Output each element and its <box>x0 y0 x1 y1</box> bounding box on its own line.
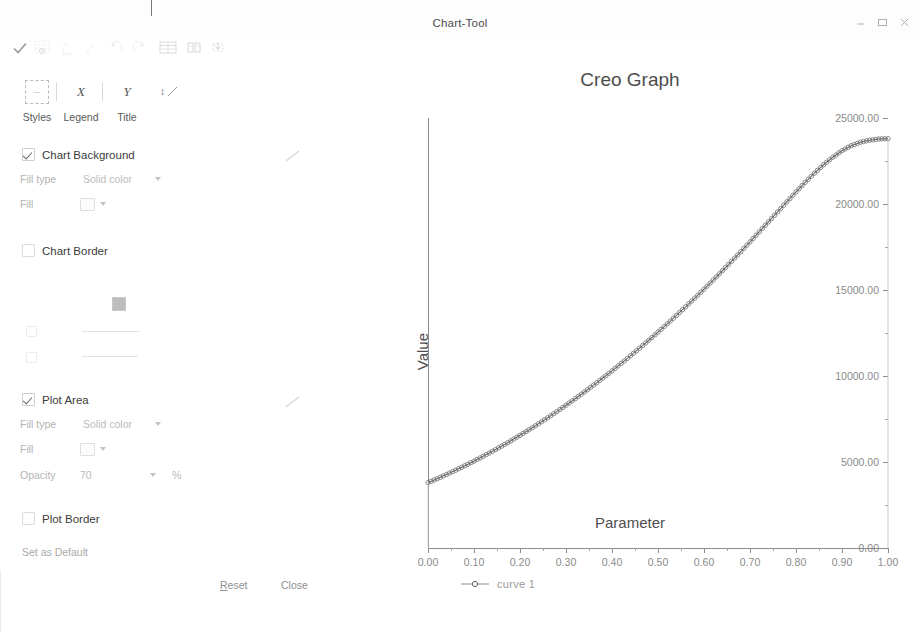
svg-text:xy: xy <box>63 41 69 47</box>
x-tick-minor <box>451 548 452 551</box>
tab-title[interactable]: Y Title <box>104 78 150 123</box>
chevron-down-icon <box>100 447 106 451</box>
x-tick-minor <box>727 548 728 551</box>
chart-border-checkbox[interactable] <box>22 244 35 257</box>
x-tick-label: 0.00 <box>418 556 438 568</box>
set-as-default-button[interactable]: Set as Default <box>22 546 88 558</box>
x-tick <box>428 548 429 553</box>
x-axis-icon: X <box>58 78 104 106</box>
tab-title-label: Title <box>104 111 150 123</box>
chart-border-label: Chart Border <box>42 245 108 257</box>
plot-area-edit-icon[interactable] <box>285 396 301 408</box>
reset-mnemonic: R <box>220 579 228 591</box>
tab-legend[interactable]: X Legend <box>58 78 104 123</box>
chart-background-fill-label: Fill <box>20 198 33 210</box>
plot-area-filltype-select[interactable]: Solid color <box>83 418 132 430</box>
plot-area-fill-swatch[interactable] <box>80 443 95 456</box>
x-tick-label: 1.00 <box>878 556 898 568</box>
x-tick-label: 0.40 <box>602 556 622 568</box>
styles-panel: xy <box>0 34 340 598</box>
tab-divider <box>102 82 103 101</box>
panel-tabs: — Styles X Legend Y Title ↕ <box>6 78 206 130</box>
close-button[interactable]: Close <box>275 577 314 593</box>
x-tick-label: 0.50 <box>648 556 668 568</box>
chevron-down-icon <box>155 177 161 181</box>
plot-area-checkbox[interactable] <box>22 393 35 406</box>
plot-area-label: Plot Area <box>42 394 89 406</box>
x-tick-minor <box>635 548 636 551</box>
x-tick <box>474 548 475 553</box>
chart-background-group[interactable]: Chart Background <box>22 148 135 161</box>
redo-icon[interactable] <box>132 40 147 56</box>
plot-border-group[interactable]: Plot Border <box>22 512 100 525</box>
chart-background-filltype-select[interactable]: Solid color <box>83 173 132 185</box>
undo-icon[interactable] <box>108 40 123 56</box>
chevron-down-icon <box>100 202 106 206</box>
chart-border-group[interactable]: Chart Border <box>22 244 108 257</box>
x-tick-label: 0.70 <box>740 556 760 568</box>
chart-background-checkbox[interactable] <box>22 148 35 161</box>
chart-legend[interactable]: curve 1 <box>460 578 535 590</box>
x-tick-label: 0.10 <box>464 556 484 568</box>
x-tick-minor <box>589 548 590 551</box>
title-bar: Chart-Tool <box>0 0 920 34</box>
x-tick-minor <box>819 548 820 551</box>
maximize-icon[interactable] <box>877 17 888 28</box>
tab-annotation[interactable]: ↕ <box>146 78 192 106</box>
x-tick-label: 0.30 <box>556 556 576 568</box>
plot-border-checkbox[interactable] <box>22 512 35 525</box>
export-icon[interactable] <box>210 40 228 56</box>
format-icon[interactable] <box>84 40 98 56</box>
reset-button-label: eset <box>228 579 248 591</box>
x-tick <box>566 548 567 553</box>
apply-check-icon[interactable] <box>12 40 28 56</box>
chart-border-disabled-field <box>26 352 37 363</box>
grid-visibility-icon[interactable] <box>34 40 52 56</box>
chart-background-edit-icon[interactable] <box>285 150 301 162</box>
x-tick-minor <box>773 548 774 551</box>
minimize-icon[interactable] <box>855 17 866 28</box>
plot-area-opacity-unit: % <box>172 469 181 481</box>
plot-area: Value 0.005000.0010000.0015000.0020000.0… <box>428 118 888 548</box>
chevron-down-icon <box>155 422 161 426</box>
data-series-icon[interactable] <box>186 40 204 56</box>
chart-background-label: Chart Background <box>42 149 135 161</box>
styles-icon: — <box>14 78 60 106</box>
axis-properties-icon[interactable]: xy <box>60 40 74 56</box>
plot-area-opacity-input[interactable]: 70 <box>80 469 92 481</box>
tab-styles[interactable]: — Styles <box>14 78 60 123</box>
reset-button[interactable]: Reset <box>214 577 253 593</box>
panel-edge <box>0 570 1 632</box>
close-icon[interactable] <box>899 17 910 28</box>
x-tick-minor <box>681 548 682 551</box>
plot-area-filltype-value: Solid color <box>83 418 132 430</box>
plot-area-fill-label: Fill <box>20 443 33 455</box>
plot-area-opacity-label: Opacity <box>20 469 56 481</box>
chart-background-filltype-label: Fill type <box>20 173 56 185</box>
chart-border-disabled-line <box>82 331 140 332</box>
x-tick <box>796 548 797 553</box>
text-caret <box>151 0 152 16</box>
legend-item-label: curve 1 <box>497 578 535 590</box>
plot-area-group[interactable]: Plot Area <box>22 393 89 406</box>
x-tick <box>842 548 843 553</box>
window-title: Chart-Tool <box>0 17 920 29</box>
x-tick <box>658 548 659 553</box>
x-tick <box>704 548 705 553</box>
curve-1-series <box>428 118 888 548</box>
panel-toolbar: xy <box>12 38 242 64</box>
x-tick-label: 0.80 <box>786 556 806 568</box>
x-tick <box>750 548 751 553</box>
plot-border-label: Plot Border <box>42 513 100 525</box>
table-icon[interactable] <box>158 40 178 56</box>
chart-title: Creo Graph <box>340 69 920 91</box>
legend-marker-icon <box>460 579 490 589</box>
tab-divider <box>56 82 57 101</box>
chart-border-disabled-line <box>82 356 138 357</box>
window-controls <box>855 17 910 28</box>
tab-legend-label: Legend <box>58 111 104 123</box>
chart-border-disabled-field <box>26 326 37 337</box>
svg-text:↕: ↕ <box>160 86 165 97</box>
chart-background-fill-swatch[interactable] <box>80 198 95 211</box>
